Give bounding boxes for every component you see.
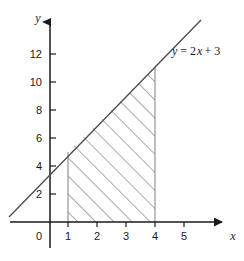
x-tick-label-5: 5 [181, 230, 187, 242]
y-tick-label-2: 2 [36, 188, 42, 200]
y-tick-label-10: 10 [30, 76, 42, 88]
equation-label-y: y [171, 44, 178, 58]
x-tick-label-1: 1 [65, 230, 71, 242]
x-tick-label-3: 3 [123, 230, 129, 242]
equation-label-tail: + 3 [204, 44, 220, 58]
equation-label-rest: = 2 [180, 44, 196, 58]
coordinate-plot: 12 10 8 6 4 2 0 1 2 3 4 5 y x y= 2x+ 3 [0, 0, 244, 261]
y-tick-label-8: 8 [36, 104, 42, 116]
x-tick-label-0: 0 [36, 230, 42, 242]
y-tick-label-12: 12 [30, 48, 42, 60]
y-tick-label-4: 4 [36, 160, 42, 172]
x-axis-label: x [229, 229, 236, 243]
y-tick-label-6: 6 [36, 132, 42, 144]
x-tick-label-4: 4 [152, 230, 158, 242]
equation-label-x: x [196, 44, 203, 58]
x-tick-label-2: 2 [94, 230, 100, 242]
y-axis-label: y [34, 11, 41, 25]
graph-figure: 12 10 8 6 4 2 0 1 2 3 4 5 y x y= 2x+ 3 [0, 0, 244, 261]
